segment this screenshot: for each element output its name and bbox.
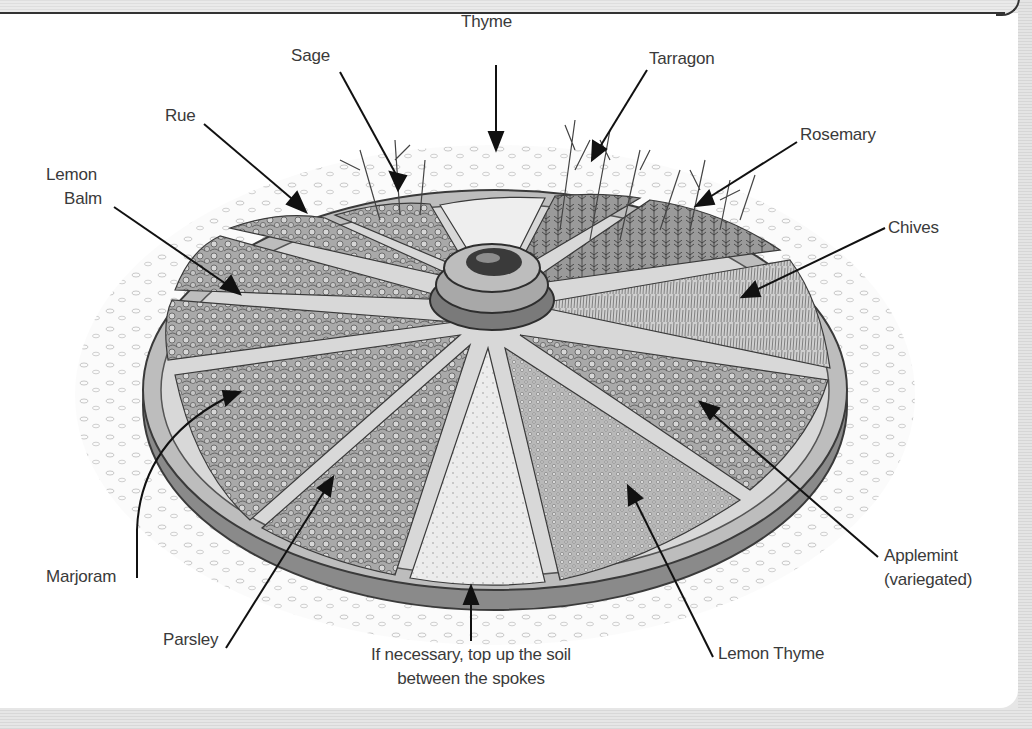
note-soil-line2: between the spokes	[334, 669, 608, 689]
note-soil-line1: If necessary, top up the soil	[334, 645, 608, 665]
label-sage: Sage	[291, 46, 330, 66]
label-tarragon: Tarragon	[649, 49, 715, 69]
label-chives: Chives	[888, 218, 939, 238]
label-lemon-thyme: Lemon Thyme	[718, 644, 824, 664]
herb-wheel-illustration	[0, 0, 1032, 729]
label-rosemary: Rosemary	[800, 125, 876, 145]
label-marjoram: Marjoram	[46, 567, 116, 587]
label-lemon-balm-line1: Lemon	[46, 165, 97, 185]
label-applemint-line1: Applemint	[884, 546, 958, 566]
label-parsley: Parsley	[163, 630, 218, 650]
label-thyme: Thyme	[461, 12, 512, 32]
label-lemon-balm-line2: Balm	[64, 189, 102, 209]
label-applemint-line2: (variegated)	[884, 570, 972, 590]
label-rue: Rue	[165, 106, 196, 126]
